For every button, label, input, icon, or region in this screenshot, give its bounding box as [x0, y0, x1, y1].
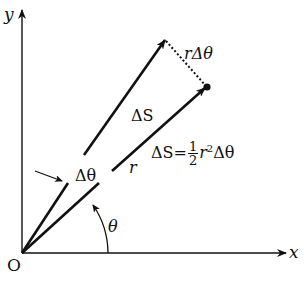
area-formula: ΔS=12r2Δθ — [151, 140, 234, 167]
formula-equals: = — [174, 143, 187, 162]
formula-numerator: 1 — [188, 140, 198, 154]
area-label: ΔS — [131, 108, 154, 124]
formula-r: r — [199, 143, 207, 162]
arc-length-label: rΔθ — [184, 46, 213, 62]
y-axis-label: y — [4, 6, 14, 23]
polar-area-diagram: y x O rΔθ ΔS r Δθ θ ΔS=12r2Δθ — [0, 0, 304, 281]
theta-label: θ — [108, 219, 118, 235]
delta-theta-pointer-arrow — [35, 171, 62, 181]
x-axis-label: x — [289, 244, 299, 261]
theta-arc — [93, 205, 108, 253]
origin-label: O — [7, 257, 21, 274]
formula-denominator: 2 — [189, 154, 197, 167]
formula-fraction: 12 — [188, 140, 198, 167]
upper-vector — [84, 40, 165, 155]
radius-label: r — [129, 160, 137, 176]
area-label-text: ΔS — [131, 106, 154, 125]
lower-vector-tip-dot — [203, 83, 210, 90]
formula-tail: Δθ — [213, 143, 234, 162]
formula-lhs: ΔS — [151, 143, 174, 162]
delta-theta-label: Δθ — [75, 168, 96, 184]
